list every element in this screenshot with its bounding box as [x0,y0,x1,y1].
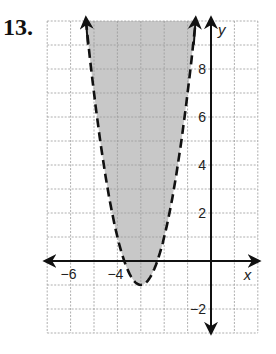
inequality-graph: −6−48642−2xy [0,0,276,354]
y-tick-label: 8 [198,61,206,77]
x-tick-label: −6 [61,266,77,282]
y-tick-label: 4 [198,157,206,173]
y-tick-label: 2 [198,205,206,221]
x-axis-label: x [243,266,252,283]
x-tick-label: −4 [107,266,123,282]
y-tick-label: 6 [198,109,206,125]
y-axis-label: y [217,21,227,38]
y-tick-label: −2 [190,301,206,317]
